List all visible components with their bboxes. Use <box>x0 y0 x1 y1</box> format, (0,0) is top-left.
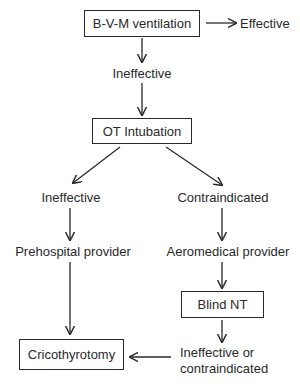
bvm-ventilation-box: B-V-M ventilation <box>84 10 200 37</box>
contraindicated-label-2: contraindicated <box>180 361 268 376</box>
aeromedical-provider-label: Aeromedical provider <box>167 244 290 259</box>
arrow-ot-contraindicated <box>166 147 222 185</box>
prehospital-provider-label: Prehospital provider <box>15 244 131 259</box>
contraindicated-label: Contraindicated <box>177 190 268 205</box>
blind-nt-label: Blind NT <box>198 297 248 312</box>
cricothyrotomy-label: Cricothyrotomy <box>28 347 115 362</box>
ineffective-or-label: Ineffective or <box>180 345 254 360</box>
effective-label: Effective <box>240 16 290 31</box>
ot-intubation-label: OT Intubation <box>103 124 182 139</box>
cricothyrotomy-box: Cricothyrotomy <box>19 339 124 370</box>
ineffective-label-2: Ineffective <box>41 190 100 205</box>
blind-nt-box: Blind NT <box>181 291 264 318</box>
ot-intubation-box: OT Intubation <box>92 118 192 144</box>
bvm-ventilation-label: B-V-M ventilation <box>93 16 191 31</box>
ineffective-label-1: Ineffective <box>112 66 171 81</box>
arrow-ot-ineffective <box>73 147 120 183</box>
